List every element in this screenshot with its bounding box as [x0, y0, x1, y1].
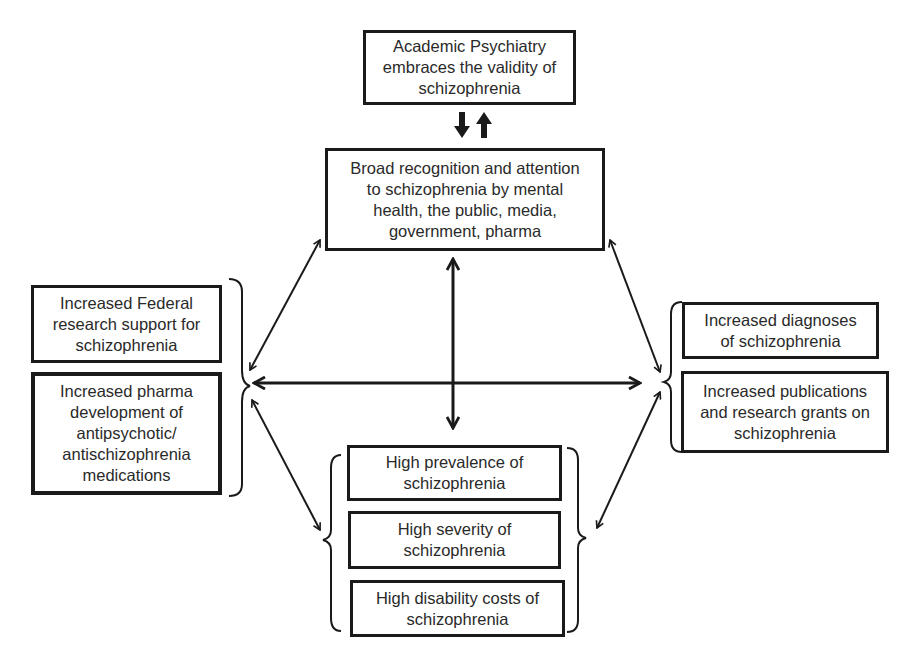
bottom-group-left-brace [323, 455, 341, 631]
left-box-federal-research: Increased Federal research support for s… [31, 285, 222, 363]
up-block-arrow-icon [476, 112, 492, 138]
down-block-arrow-icon [454, 112, 470, 138]
arrow-right-bottom [597, 392, 660, 528]
diagram-canvas: Academic Psychiatry embraces the validit… [0, 0, 922, 666]
right-box-publications-grants: Increased publications and research gran… [681, 371, 889, 453]
bottom-group-right-brace [567, 448, 586, 632]
top-box-academic-psychiatry: Academic Psychiatry embraces the validit… [363, 30, 576, 105]
right-box-increased-diagnoses: Increased diagnoses of schizophrenia [682, 302, 879, 359]
left-group-brace [229, 279, 250, 496]
top-center-arrows [454, 112, 492, 138]
bottom-box-high-disability-costs: High disability costs of schizophrenia [350, 580, 565, 637]
left-box-pharma-development: Increased pharma development of antipsyc… [31, 372, 222, 495]
bottom-box-high-severity: High severity of schizophrenia [348, 511, 561, 569]
bottom-box-high-prevalence: High prevalence of schizophrenia [347, 445, 562, 501]
arrow-center-left [250, 240, 320, 370]
arrow-center-right [610, 240, 660, 372]
right-group-brace [664, 302, 682, 452]
arrow-left-bottom [252, 400, 320, 530]
center-box-broad-recognition: Broad recognition and attention to schiz… [325, 148, 605, 251]
